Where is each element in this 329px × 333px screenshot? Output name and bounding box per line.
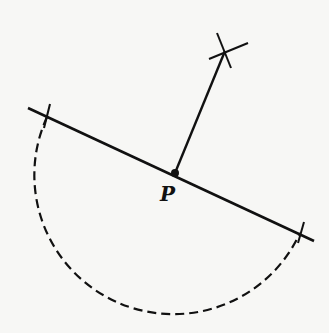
tick-mark-right (298, 222, 304, 243)
perpendicular-line (175, 51, 225, 173)
arc-mark-2 (209, 43, 248, 59)
construction-figure: P (0, 0, 329, 333)
point-p-dot (171, 169, 179, 177)
point-p-label: P (159, 182, 176, 206)
base-line (28, 108, 314, 241)
diagram-canvas: P (0, 0, 329, 333)
